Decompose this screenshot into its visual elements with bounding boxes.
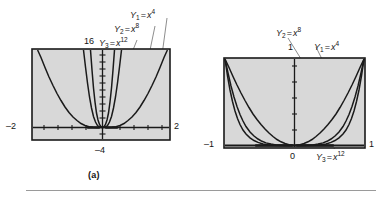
curve-label-a-y2: Y2=x8: [114, 22, 139, 35]
curve-label-a-y1-exp: 4: [151, 8, 155, 15]
axis-label-b-top: 1: [288, 42, 293, 52]
curve-label-b-y3-exp: 12: [337, 150, 344, 157]
axis-label-a-right: 2: [174, 121, 179, 131]
curve-label-b-y2: Y2=x8: [276, 26, 301, 39]
curve-label-b-y3: Y3=x12: [316, 150, 345, 163]
figure-two-viewing-windows: –2 2 16 –4 Y3=x12 Y2=x8 Y1=x4 (a): [0, 0, 392, 200]
curve-label-b-y1: Y1=x4: [314, 40, 339, 53]
axis-label-a-left: –2: [6, 121, 16, 131]
axis-label-b-left: –1: [204, 139, 214, 149]
curve-label-a-y3-eq: =: [109, 38, 116, 48]
curve-label-a-y1: Y1=x4: [130, 8, 155, 21]
curve-label-b-y2-exp: 8: [297, 26, 301, 33]
curve-label-b-y2-eq: =: [286, 28, 293, 38]
panel-b: –1 1 1 0 Y2=x8 Y1=x4 Y3=x12 (b): [196, 0, 392, 200]
panel-a: –2 2 16 –4 Y3=x12 Y2=x8 Y1=x4 (a): [0, 0, 196, 200]
curve-label-a-y3-exp: 12: [120, 36, 127, 43]
axis-label-b-bottom: 0: [290, 151, 295, 161]
panel-a-caption: (a): [88, 170, 100, 180]
curve-label-b-y1-exp: 4: [335, 40, 339, 47]
curve-label-b-y3-eq: =: [326, 152, 333, 162]
curve-label-a-y2-eq: =: [124, 24, 131, 34]
curve-label-a-y1-eq: =: [140, 10, 147, 20]
axis-label-b-right: 1: [369, 139, 374, 149]
curve-label-b-y1-eq: =: [324, 42, 331, 52]
curve-label-a-y2-exp: 8: [135, 22, 139, 29]
horizontal-rule: [26, 190, 376, 191]
axis-label-a-top: 16: [84, 36, 94, 46]
curve-label-a-y3: Y3=x12: [99, 36, 128, 49]
axis-label-a-bottom: –4: [95, 145, 105, 155]
